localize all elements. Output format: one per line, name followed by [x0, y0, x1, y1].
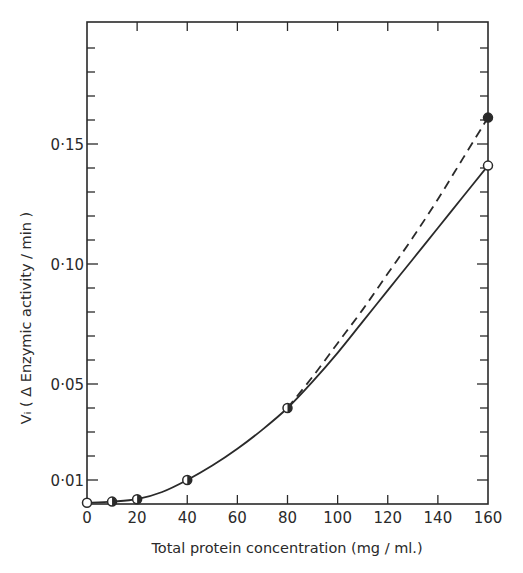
x-tick-label: 0 [82, 509, 92, 527]
solid-curve [87, 166, 488, 503]
y-tick-label: 0·10 [51, 256, 84, 274]
x-tick-label: 160 [474, 509, 503, 527]
y-tick-label: 0·01 [51, 472, 84, 490]
x-tick-label: 100 [323, 509, 352, 527]
y-tick-labels: 0·010·050·100·15 [51, 136, 84, 490]
y-tick-label: 0·05 [51, 376, 84, 394]
dashed-curve [288, 118, 489, 408]
x-tick-label: 80 [278, 509, 297, 527]
x-axis-label: Total protein concentration (mg / ml.) [150, 540, 422, 556]
x-tick-label: 140 [424, 509, 453, 527]
data-curves [87, 118, 488, 503]
data-markers [83, 113, 493, 507]
plot-frame [87, 22, 488, 504]
filled-circle-marker [484, 113, 493, 122]
x-tick-labels: 020406080100120140160 [82, 509, 502, 527]
x-tick-label: 60 [228, 509, 247, 527]
y-axis-label: Vᵢ ( Δ Enzymic activity / min ) [18, 212, 34, 424]
x-tick-label: 40 [178, 509, 197, 527]
plot-border [87, 22, 488, 504]
open-circle-marker [484, 161, 493, 170]
x-tick-label: 120 [373, 509, 402, 527]
enzyme-activity-chart: 020406080100120140160 0·010·050·100·15 T… [0, 0, 523, 573]
open-circle-marker [83, 498, 92, 507]
axis-ticks [87, 22, 488, 504]
y-tick-label: 0·15 [51, 136, 84, 154]
x-tick-label: 20 [128, 509, 147, 527]
